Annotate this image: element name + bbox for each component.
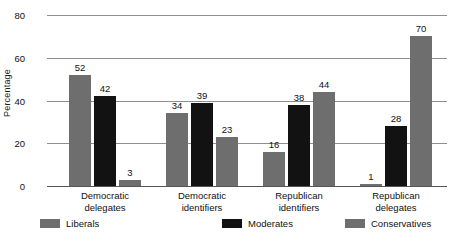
bar bbox=[216, 137, 238, 186]
bar-value-label: 42 bbox=[100, 83, 111, 94]
chart-legend: LiberalsModeratesConservatives bbox=[0, 218, 449, 236]
bar-value-label: 38 bbox=[294, 92, 305, 103]
y-axis-tick-label: 0 bbox=[3, 181, 25, 192]
legend-swatch bbox=[222, 219, 242, 228]
bar bbox=[166, 113, 188, 186]
x-axis-category-label: Democraticidentifiers bbox=[178, 190, 226, 213]
x-axis-category-label: Republicanidentifiers bbox=[275, 190, 323, 213]
legend-swatch bbox=[345, 219, 365, 228]
gridline bbox=[47, 58, 447, 59]
category-label-line: identifiers bbox=[178, 202, 226, 214]
y-axis-title: Percentage bbox=[0, 0, 14, 186]
category-label-line: delegates bbox=[81, 202, 129, 214]
legend-swatch bbox=[40, 219, 60, 228]
y-axis-tick-label: 60 bbox=[3, 52, 25, 63]
category-label-line: delegates bbox=[372, 202, 420, 214]
bar-value-label: 70 bbox=[416, 23, 427, 34]
bar bbox=[94, 96, 116, 186]
legend-label: Conservatives bbox=[371, 218, 431, 229]
y-axis-tick-label: 20 bbox=[3, 138, 25, 149]
bar bbox=[119, 180, 141, 186]
bar bbox=[410, 36, 432, 186]
bar-value-label: 23 bbox=[222, 124, 233, 135]
gridline bbox=[47, 15, 447, 16]
bar-value-label: 34 bbox=[172, 100, 183, 111]
bar bbox=[288, 105, 310, 186]
legend-label: Liberals bbox=[66, 218, 99, 229]
bar-value-label: 52 bbox=[75, 62, 86, 73]
bar bbox=[360, 184, 382, 186]
category-label-line: identifiers bbox=[275, 202, 323, 214]
legend-item[interactable]: Conservatives bbox=[345, 218, 431, 229]
bar bbox=[191, 103, 213, 186]
bar-value-label: 16 bbox=[269, 139, 280, 150]
bar bbox=[263, 152, 285, 186]
category-label-line: Republican bbox=[372, 190, 420, 202]
y-axis-tick-label: 40 bbox=[3, 95, 25, 106]
bar-value-label: 44 bbox=[319, 79, 330, 90]
x-axis-category-label: Republicandelegates bbox=[372, 190, 420, 213]
y-axis-tick-label: 80 bbox=[3, 10, 25, 21]
legend-item[interactable]: Liberals bbox=[40, 218, 99, 229]
bar-value-label: 1 bbox=[368, 171, 373, 182]
x-axis-line bbox=[47, 186, 447, 187]
bar bbox=[385, 126, 407, 186]
category-label-line: Republican bbox=[275, 190, 323, 202]
x-axis-category-label: Democraticdelegates bbox=[81, 190, 129, 213]
bar-chart: Percentage 020406080 5242334392316384412… bbox=[0, 0, 449, 244]
bar-value-label: 39 bbox=[197, 90, 208, 101]
bar-value-label: 3 bbox=[127, 167, 132, 178]
legend-item[interactable]: Moderates bbox=[222, 218, 293, 229]
category-label-line: Democratic bbox=[81, 190, 129, 202]
bar bbox=[69, 75, 91, 186]
plot-area: 020406080 5242334392316384412870 bbox=[47, 15, 447, 186]
bar-value-label: 28 bbox=[391, 113, 402, 124]
bar bbox=[313, 92, 335, 186]
y-axis-title-text: Percentage bbox=[2, 69, 12, 117]
legend-label: Moderates bbox=[248, 218, 293, 229]
category-label-line: Democratic bbox=[178, 190, 226, 202]
